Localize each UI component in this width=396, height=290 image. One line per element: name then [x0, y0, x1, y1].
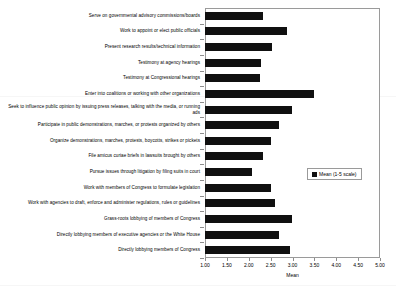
- bar: [205, 59, 261, 67]
- x-axis-tick: [358, 258, 359, 261]
- category-axis-labels: Serve on governmental advisory commissio…: [0, 8, 203, 258]
- category-tick: [200, 117, 204, 118]
- bar: [205, 215, 292, 223]
- category-label: Pursue issues through litigation by fili…: [2, 169, 200, 175]
- category-tick: [200, 149, 204, 150]
- x-axis-tick-label: 5.00: [365, 262, 395, 268]
- category-label: Enter into coalitions or working with ot…: [2, 91, 200, 97]
- bar: [205, 168, 252, 176]
- category-tick: [200, 258, 204, 259]
- bar: [205, 231, 279, 239]
- category-label: Seek to influence public opinion by issu…: [2, 104, 200, 115]
- category-label: File amicus curiae briefs in lawsuits br…: [2, 153, 200, 159]
- bar: [205, 27, 287, 35]
- category-tick: [200, 102, 204, 103]
- bar: [205, 121, 279, 129]
- category-label: Directly lobbying members of executive a…: [2, 232, 200, 238]
- bar: [205, 137, 271, 145]
- bar: [205, 246, 290, 254]
- x-axis-tick: [380, 258, 381, 261]
- chart-legend: Mean (1-5 scale): [307, 168, 362, 180]
- category-tick: [200, 211, 204, 212]
- x-axis-tick: [336, 258, 337, 261]
- x-axis-tick: [271, 258, 272, 261]
- scan-artifact: [0, 285, 396, 286]
- x-axis-tick: [293, 258, 294, 261]
- category-tick: [200, 39, 204, 40]
- category-tick: [200, 180, 204, 181]
- category-label: Present research results/technical infor…: [2, 44, 200, 50]
- category-label: Testimony at Congressional hearings: [2, 75, 200, 81]
- category-tick: [200, 55, 204, 56]
- legend-label-mean: Mean (1-5 scale): [319, 171, 357, 177]
- bar: [205, 106, 292, 114]
- x-axis-tick: [249, 258, 250, 261]
- category-tick: [200, 71, 204, 72]
- bar-chart: Serve on governmental advisory commissio…: [0, 0, 396, 290]
- category-label: Organize demonstrations, marches, protes…: [2, 138, 200, 144]
- category-label: Testimony at agency hearings: [2, 60, 200, 66]
- bar: [205, 184, 271, 192]
- x-axis-tick: [314, 258, 315, 261]
- category-tick: [200, 133, 204, 134]
- category-label: Participate in public demonstrations, ma…: [2, 122, 200, 128]
- x-axis-title: Mean: [205, 272, 380, 278]
- bar: [205, 43, 272, 51]
- bar: [205, 199, 275, 207]
- category-label: Work to appoint or elect public official…: [2, 28, 200, 34]
- bar: [205, 152, 263, 160]
- category-label: Work with agencies to draft, enforce and…: [2, 200, 200, 206]
- x-axis-tick: [205, 258, 206, 261]
- category-label: Serve on governmental advisory commissio…: [2, 13, 200, 19]
- bar: [205, 90, 314, 98]
- legend-swatch-mean: [312, 172, 317, 177]
- category-label: Grass-roots lobbying of members of Congr…: [2, 216, 200, 222]
- category-tick: [200, 196, 204, 197]
- category-tick: [200, 86, 204, 87]
- category-label: Work with members of Congress to formula…: [2, 185, 200, 191]
- category-label: Directly lobbying members of Congress: [2, 247, 200, 253]
- bar: [205, 74, 260, 82]
- category-tick: [200, 24, 204, 25]
- category-tick: [200, 227, 204, 228]
- bar: [205, 12, 263, 20]
- x-axis-tick: [227, 258, 228, 261]
- category-tick: [200, 164, 204, 165]
- category-tick: [200, 242, 204, 243]
